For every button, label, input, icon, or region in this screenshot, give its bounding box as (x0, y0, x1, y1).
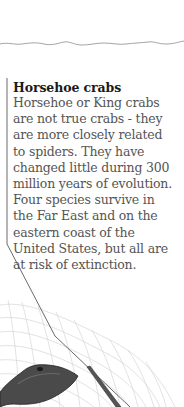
caption-line: Horsehoe or King crabs (13, 95, 172, 111)
caption-line: million years of evolution. (13, 176, 172, 192)
caption-line: eastern coast of the (13, 225, 172, 241)
caption-line: are more closely related (13, 127, 172, 143)
caption-line: United States, but all are (13, 241, 172, 257)
caption-line: at risk of extinction. (13, 257, 172, 273)
caption-line: to spiders. They have (13, 144, 172, 160)
fishing-net-icon (0, 300, 175, 407)
crab-tail-icon (87, 366, 121, 407)
wavy-divider (0, 36, 184, 50)
caption-body: Horsehoe or King crabs are not true crab… (13, 95, 172, 273)
horseshoe-crab-icon (0, 365, 78, 407)
caption-line: the Far East and on the (13, 208, 172, 224)
caption-line: Four species survive in (13, 192, 172, 208)
caption-line: are not true crabs - they (13, 111, 172, 127)
caption-line: changed little during 300 (13, 160, 172, 176)
caption-title: Horsehoe crabs (13, 80, 121, 96)
